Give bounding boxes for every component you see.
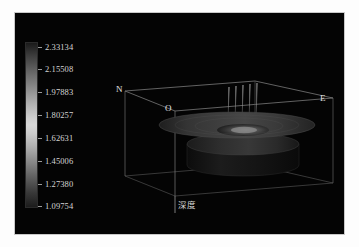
plot-panel: N E O 深度 2.33134 2.15508 1.97883 1.80257… [14, 12, 345, 235]
anomaly-core-inner [231, 127, 257, 133]
axis-label-depth: 深度 [178, 201, 196, 210]
colorbar-gradient-strip [25, 42, 38, 208]
colorbar-tick [38, 115, 42, 116]
colorbar-tick-label: 1.27380 [45, 180, 73, 189]
colorbar-tick [38, 47, 42, 48]
colorbar-tick-label: 2.33134 [45, 43, 73, 52]
colorbar-tick [38, 138, 42, 139]
axis-label-origin: O [165, 104, 172, 113]
colorbar-tick [38, 161, 42, 162]
colorbar: 2.33134 2.15508 1.97883 1.80257 1.62631 … [25, 42, 120, 210]
figure-container: N E O 深度 2.33134 2.15508 1.97883 1.80257… [0, 0, 359, 247]
colorbar-tick [38, 92, 42, 93]
colorbar-tick-label: 1.45006 [45, 157, 73, 166]
colorbar-tick [38, 184, 42, 185]
colorbar-tick-label: 1.09754 [45, 202, 73, 211]
colorbar-tick [38, 69, 42, 70]
colorbar-tick-label: 1.62631 [45, 134, 73, 143]
colorbar-tick-label: 1.97883 [45, 88, 73, 97]
colorbar-tick-label: 2.15508 [45, 65, 73, 74]
colorbar-tick [38, 206, 42, 207]
colorbar-tick-label: 1.80257 [45, 111, 73, 120]
axis-label-east: E [320, 94, 326, 103]
